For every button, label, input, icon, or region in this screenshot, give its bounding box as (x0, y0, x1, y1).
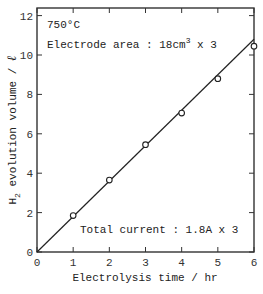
x-tick-label: 4 (178, 257, 185, 269)
y-tick-label: 2 (26, 208, 33, 220)
data-point (70, 213, 76, 219)
data-point (143, 142, 149, 148)
x-tick-label: 5 (215, 257, 222, 269)
temperature-annotation: 750°C (47, 19, 80, 31)
data-point (251, 43, 257, 49)
data-point (179, 110, 185, 116)
x-tick-label: 0 (34, 257, 41, 269)
y-tick-label: 6 (26, 129, 33, 141)
x-tick-label: 3 (142, 257, 149, 269)
x-tick-label: 1 (70, 257, 77, 269)
y-tick-label: 10 (20, 50, 33, 62)
data-point (107, 177, 113, 183)
x-tick-label: 6 (251, 257, 258, 269)
y-axis-ticks (37, 16, 254, 252)
y-tick-label: 4 (26, 168, 33, 180)
data-point (215, 76, 221, 82)
y-tick-label: 12 (20, 11, 33, 23)
x-axis-tick-labels: 0123456 (34, 257, 258, 269)
y-tick-label: 0 (26, 247, 33, 259)
x-tick-label: 2 (106, 257, 113, 269)
chart: 0123456 024681012 750°C Electrode area :… (0, 0, 263, 294)
x-axis-title: Electrolysis time / hr (72, 272, 217, 284)
electrode-area-annotation: Electrode area : 18cm3 x 3 (47, 36, 217, 51)
y-tick-label: 8 (26, 89, 33, 101)
y-axis-title: H2 evolution volume / ℓ (4, 55, 22, 204)
total-current-annotation: Total current : 1.8A x 3 (80, 224, 238, 236)
y-axis-tick-labels: 024681012 (20, 11, 34, 259)
